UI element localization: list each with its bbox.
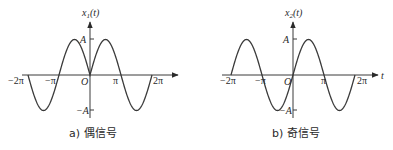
caption-odd: b) 奇信号 (272, 127, 320, 140)
caption-even: a) 偶信号 (69, 127, 117, 140)
tick-label-neg-2pi: −2π (220, 75, 236, 86)
amp-neg-label: −A (279, 105, 293, 116)
amp-pos-label: A (282, 34, 290, 45)
tick-label-2pi: 2π (357, 75, 367, 86)
y-axis-label: x2(t) (284, 7, 303, 20)
amp-pos-label: A (79, 34, 87, 45)
odd-signal-plot: x2(t) t A −A −2π −π O π 2π b) 奇信号 (220, 7, 384, 140)
tick-label-pi: π (113, 75, 118, 86)
even-signal-plot: x1(t) A −A −2π −π O π 2π a) 偶信号 (8, 7, 178, 140)
tick-label-pi: π (321, 75, 326, 86)
origin-label: O (284, 76, 291, 87)
y-axis-label: x1(t) (81, 7, 100, 20)
x-axis-label: t (381, 70, 384, 81)
tick-label-2pi: 2π (153, 75, 163, 86)
tick-label-neg-2pi: −2π (8, 75, 24, 86)
amp-neg-label: −A (76, 105, 90, 116)
origin-label: O (81, 76, 88, 87)
tick-label-neg-pi: −π (45, 75, 56, 86)
tick-label-neg-pi: −π (255, 75, 266, 86)
figure: x1(t) A −A −2π −π O π 2π a) 偶信号 x2(t) t … (0, 0, 393, 150)
